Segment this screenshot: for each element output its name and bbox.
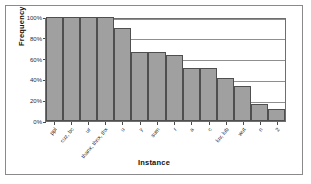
y-axis-tick-label: 80% <box>30 36 42 42</box>
bar <box>80 17 97 121</box>
x-axis-tick-label: sum <box>150 127 161 139</box>
x-axis-tick-mark <box>191 122 192 125</box>
x-axis-tick-label: wut <box>237 127 247 137</box>
x-axis-label-cell: 2 <box>269 126 286 162</box>
x-axis-tick-label: u <box>120 127 126 133</box>
bar-slot <box>166 19 183 121</box>
x-axis-tick-label: r <box>173 127 178 132</box>
x-axis-tick-mark <box>105 122 106 125</box>
bar <box>166 55 183 121</box>
x-axis-tick-label: 2 <box>275 127 281 133</box>
x-axis-tick-mark <box>140 122 141 125</box>
x-axis-label-cell: r <box>166 126 183 162</box>
bar <box>131 52 148 121</box>
y-axis-tick-label: 20% <box>30 98 42 104</box>
x-axis-tick-mark <box>277 122 278 125</box>
x-axis-tick-mark <box>243 122 244 125</box>
bar-series <box>46 19 285 121</box>
x-axis-title: Instance <box>6 158 302 167</box>
x-axis-label-cell: thanx, thnx, thx <box>97 126 114 162</box>
x-axis-tick-label: n <box>258 127 264 133</box>
bar <box>46 17 63 121</box>
x-axis-tick-label: cuz, bc <box>59 127 75 144</box>
x-axis-tick-label: c <box>207 127 213 133</box>
x-axis-tick-mark <box>88 122 89 125</box>
x-axis-tick-mark <box>260 122 261 125</box>
bar <box>234 86 251 121</box>
y-axis-tick-label: 0% <box>33 119 42 125</box>
y-axis-tick-label: 40% <box>30 77 42 83</box>
x-axis-tick-label: y <box>138 127 144 133</box>
x-axis-label-cell: u <box>114 126 131 162</box>
x-axis-tick-label: ppl <box>49 127 58 136</box>
bar-slot <box>268 19 285 121</box>
y-axis-tick-label: 100% <box>27 15 42 21</box>
bar-slot <box>183 19 200 121</box>
x-axis-tick-mark <box>122 122 123 125</box>
x-axis-tick-label: ur <box>85 127 92 134</box>
bar-slot <box>114 19 131 121</box>
bar <box>217 78 234 121</box>
bar-slot <box>200 19 217 121</box>
x-axis-label-cell: y <box>131 126 148 162</box>
x-axis-label-cell: n <box>252 126 269 162</box>
bar-slot <box>217 19 234 121</box>
bar-slot <box>80 19 97 121</box>
bar-slot <box>97 19 114 121</box>
bar <box>200 68 217 121</box>
x-axis-tick-mark <box>226 122 227 125</box>
y-axis: Frequency 0%20%40%60%80%100% <box>18 18 45 122</box>
x-axis-label-cell: cuz, bc <box>62 126 79 162</box>
bar <box>183 68 200 121</box>
bar-slot <box>63 19 80 121</box>
bar-slot <box>251 19 268 121</box>
x-axis-tick-mark <box>54 122 55 125</box>
bar <box>114 28 131 121</box>
y-axis-tick-label: 60% <box>30 57 42 63</box>
y-axis-title: Frequency <box>17 6 26 46</box>
x-axis-tick-mark <box>157 122 158 125</box>
x-axis-label-cell: luv, lub <box>217 126 234 162</box>
bar <box>251 104 268 121</box>
x-axis-label-cell: a <box>183 126 200 162</box>
x-axis-tick-mark <box>174 122 175 125</box>
x-axis-label-cell: ppl <box>45 126 62 162</box>
x-axis-labels: pplcuz, bcurthanx, thnx, thxuysumracluv,… <box>45 126 286 162</box>
x-axis-label-cell: c <box>200 126 217 162</box>
x-axis-tick-label: a <box>189 127 195 133</box>
plot-area <box>45 18 286 122</box>
bar-slot <box>131 19 148 121</box>
x-axis-label-cell: sum <box>148 126 165 162</box>
bar-slot <box>234 19 251 121</box>
x-axis-label-cell: wut <box>234 126 251 162</box>
bar <box>268 109 285 121</box>
chart-figure: Frequency 0%20%40%60%80%100% pplcuz, bcu… <box>5 5 303 175</box>
x-axis-tick-mark <box>71 122 72 125</box>
bar-slot <box>46 19 63 121</box>
bar-slot <box>148 19 165 121</box>
bar <box>97 17 114 121</box>
bar <box>63 17 80 121</box>
x-axis-tick-label: luv, lub <box>215 127 230 144</box>
x-axis-tick-mark <box>209 122 210 125</box>
bar <box>148 52 165 121</box>
